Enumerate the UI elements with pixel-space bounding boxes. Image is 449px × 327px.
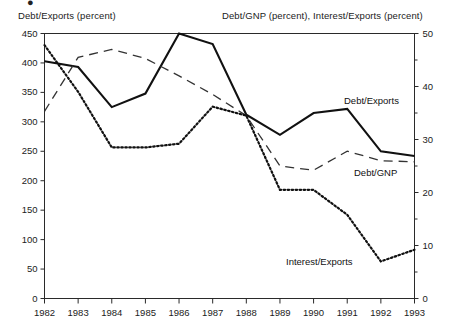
series-annotation-debt-gnp: Debt/GNP — [354, 167, 397, 178]
plot-frame — [45, 34, 415, 299]
left-axis-tick-label: 350 — [0, 87, 38, 97]
right-axis-tick-label: 10 — [423, 241, 434, 251]
left-axis-tick-label: 400 — [0, 58, 38, 68]
x-axis-tick-label: 1983 — [60, 308, 96, 318]
plot-border — [45, 34, 415, 299]
chart-figure: ● Debt/Exports (percent) Debt/GNP (perce… — [0, 0, 449, 327]
x-axis-tick-label: 1988 — [228, 308, 264, 318]
x-axis-tick-label: 1984 — [94, 308, 130, 318]
x-axis-tick-label: 1992 — [363, 308, 399, 318]
x-axis-tick-label: 1991 — [329, 308, 365, 318]
x-axis-tick-label: 1990 — [296, 308, 332, 318]
left-axis-tick-label: 100 — [0, 235, 38, 245]
right-axis-header: Debt/GNP (percent), Interest/Exports (pe… — [222, 10, 423, 21]
x-axis-tick-label: 1987 — [195, 308, 231, 318]
top-marker-glyph: ● — [27, 0, 34, 8]
x-axis-tick-label: 1986 — [161, 308, 197, 318]
left-axis-tick-label: 150 — [0, 205, 38, 215]
right-axis-tick-label: 0 — [423, 294, 428, 304]
right-axis-tick-label: 40 — [423, 82, 434, 92]
x-axis-tick-label: 1989 — [262, 308, 298, 318]
series-lines — [45, 34, 415, 262]
series-annotation-debt-exports: Debt/Exports — [344, 95, 399, 106]
x-axis-tick-label: 1993 — [397, 308, 433, 318]
left-axis-tick-label: 450 — [0, 29, 38, 39]
left-axis-tick-label: 300 — [0, 117, 38, 127]
x-axis-tick-label: 1985 — [127, 308, 163, 318]
left-axis-tick-label: 250 — [0, 146, 38, 156]
x-axis-tick-label: 1982 — [27, 308, 63, 318]
plot-canvas — [0, 0, 449, 327]
series-annotation-interest-exports: Interest/Exports — [286, 256, 353, 267]
left-axis-tick-label: 200 — [0, 176, 38, 186]
left-axis-tick-label: 0 — [0, 294, 38, 304]
right-axis-tick-label: 30 — [423, 135, 434, 145]
right-axis-tick-label: 20 — [423, 188, 434, 198]
left-axis-header: Debt/Exports (percent) — [18, 10, 116, 21]
left-axis-tick-label: 50 — [0, 264, 38, 274]
series-line-debt-gnp — [45, 49, 415, 170]
right-axis-tick-label: 50 — [423, 29, 434, 39]
